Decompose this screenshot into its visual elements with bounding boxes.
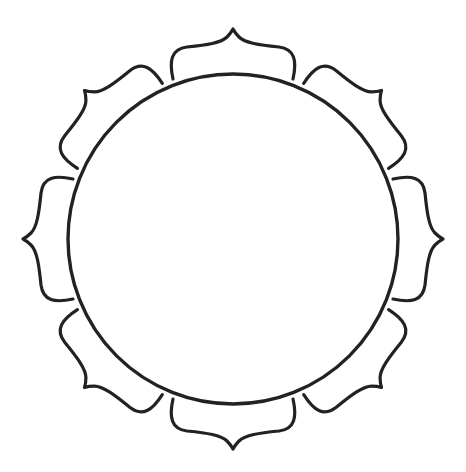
petal-right	[393, 177, 443, 301]
petal-bottom	[171, 399, 295, 449]
lotus-frame-drawing	[0, 0, 466, 472]
petals	[23, 29, 443, 449]
center-circle	[68, 74, 398, 404]
lotus-frame	[0, 0, 466, 472]
petal-left	[23, 177, 73, 301]
petal-top	[171, 29, 295, 79]
